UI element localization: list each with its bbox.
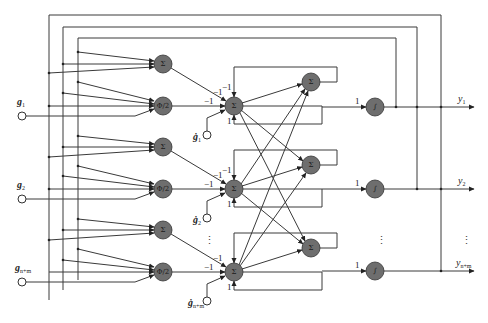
g-input-wires — [26, 109, 154, 282]
svg-text:ġ2: ġ2 — [192, 214, 201, 226]
svg-text:∫: ∫ — [373, 267, 377, 275]
phi-node-1: Φ/2 — [154, 97, 172, 115]
phi-node-2: Φ/2 — [154, 180, 172, 198]
svg-text:−1: −1 — [204, 96, 214, 106]
left-sum-node-2: Σ — [154, 138, 172, 156]
svg-text:Σ: Σ — [232, 102, 237, 110]
svg-text:−1: −1 — [204, 179, 214, 189]
svg-text:yn+m: yn+m — [455, 257, 472, 269]
svg-text:Σ: Σ — [232, 268, 237, 276]
svg-text:Φ/2: Φ/2 — [157, 268, 170, 276]
input-terminal-gnm — [18, 278, 26, 286]
svg-text:g2: g2 — [16, 179, 25, 191]
to-integrator-wires — [322, 107, 366, 271]
svg-text:∫: ∫ — [373, 103, 377, 111]
neural-network-diagram: Σ Σ Σ Φ/2 Φ/2 Φ/2 Σ Σ Σ Σ Σ Σ ∫ ∫ ∫ g1 g… — [0, 0, 488, 323]
svg-text:1: 1 — [355, 96, 360, 106]
integrator-nodes: ∫ ∫ ∫ — [366, 98, 384, 280]
svg-text:Σ: Σ — [161, 60, 166, 68]
svg-text:Σ: Σ — [309, 161, 314, 169]
svg-text:1: 1 — [227, 199, 232, 209]
mid-sum-node-3: Σ — [225, 263, 243, 281]
svg-text:⋮: ⋮ — [461, 234, 472, 246]
input-terminals — [18, 112, 211, 305]
integrator-node-2: ∫ — [366, 180, 384, 198]
svg-text:−1: −1 — [213, 253, 223, 263]
left-sum-node-3: Σ — [154, 221, 172, 239]
cross-connections — [239, 84, 308, 269]
svg-text:−1: −1 — [222, 165, 232, 175]
phi-node-3: Φ/2 — [154, 263, 172, 281]
left-sum-nodes: Σ Σ Σ — [154, 55, 172, 239]
right-sum-node-2: Σ — [302, 156, 320, 174]
svg-text:g1: g1 — [16, 96, 25, 108]
svg-text:Σ: Σ — [309, 78, 314, 86]
right-sum-node-1: Σ — [302, 73, 320, 91]
input-terminal-gdot2 — [203, 214, 211, 222]
mid-sum-node-1: Σ — [225, 97, 243, 115]
integrator-node-1: ∫ — [366, 98, 384, 116]
mid-sum-node-2: Σ — [225, 180, 243, 198]
svg-text:Σ: Σ — [232, 185, 237, 193]
svg-text:Φ/2: Φ/2 — [157, 102, 170, 110]
integrator-node-3: ∫ — [366, 262, 384, 280]
input-terminal-g1 — [18, 112, 26, 120]
svg-text:ġ1: ġ1 — [192, 131, 201, 143]
svg-text:y2: y2 — [457, 175, 465, 187]
svg-text:Σ: Σ — [161, 226, 166, 234]
feedback-loops — [49, 15, 441, 300]
svg-text:1: 1 — [227, 282, 232, 292]
svg-text:Σ: Σ — [161, 143, 166, 151]
svg-text:−1: −1 — [222, 82, 232, 92]
output-lines — [384, 106, 474, 273]
ellipsis-markers: ⋮ ⋮ ⋮ — [204, 234, 472, 246]
svg-text:1: 1 — [355, 178, 360, 188]
svg-text:Φ/2: Φ/2 — [157, 185, 170, 193]
svg-text:1: 1 — [355, 260, 360, 270]
input-terminal-g2 — [18, 195, 26, 203]
input-terminal-gdot1 — [203, 131, 211, 139]
left-sum-node-1: Σ — [154, 55, 172, 73]
svg-text:Σ: Σ — [309, 244, 314, 252]
svg-text:gn+m: gn+m — [14, 262, 31, 274]
svg-text:ġn+m: ġn+m — [187, 297, 204, 309]
svg-text:y1: y1 — [457, 93, 465, 105]
svg-text:1: 1 — [227, 116, 232, 126]
right-sum-node-3: Σ — [302, 239, 320, 257]
svg-text:⋮: ⋮ — [376, 234, 387, 246]
input-terminal-gdotnm — [203, 297, 211, 305]
svg-text:∫: ∫ — [373, 185, 377, 193]
input-labels: g1 g2 gn+m ġ1 ġ2 ġn+m — [14, 96, 204, 309]
svg-text:⋮: ⋮ — [204, 234, 215, 246]
svg-text:−1: −1 — [204, 262, 214, 272]
input-bus-connections — [48, 51, 154, 272]
phi-nodes: Φ/2 Φ/2 Φ/2 — [154, 97, 172, 281]
